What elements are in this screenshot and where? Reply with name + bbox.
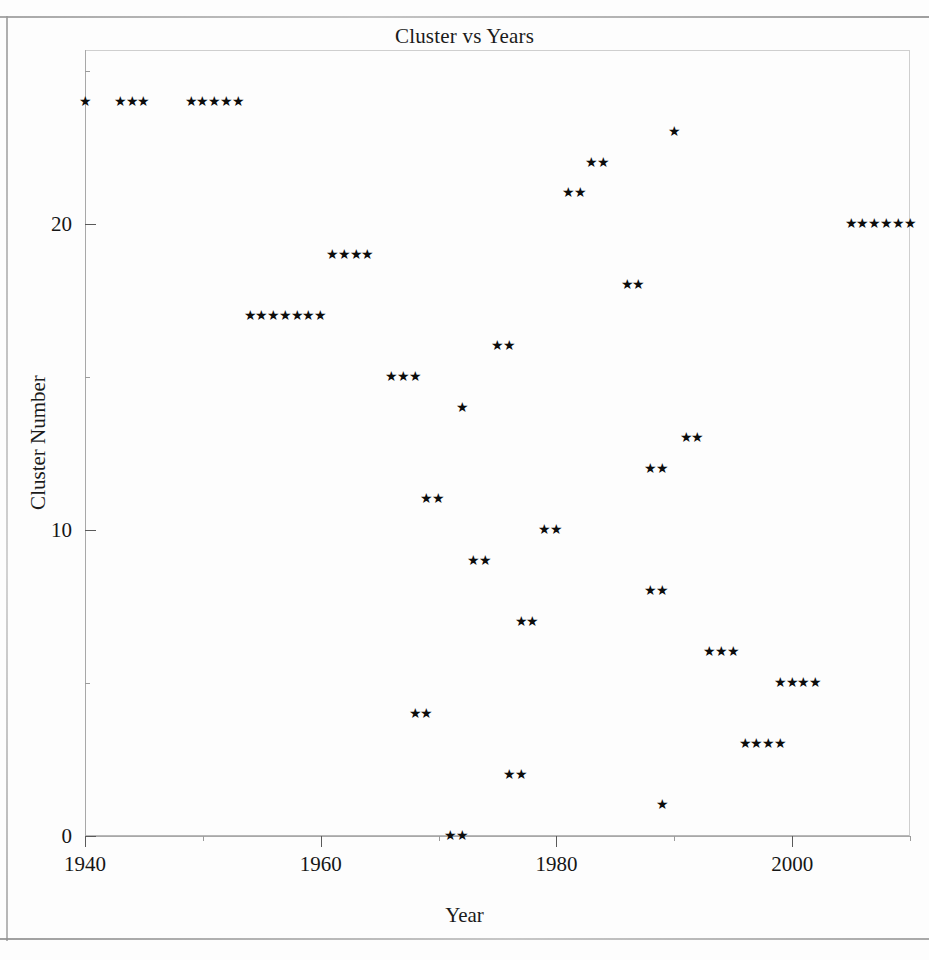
scatter-point-marker: ★ bbox=[656, 798, 669, 812]
y-axis-line bbox=[85, 50, 86, 836]
y-tick-minor bbox=[85, 377, 90, 378]
scatter-point-marker: ★ bbox=[727, 645, 740, 659]
scatter-point-marker: ★ bbox=[550, 523, 563, 537]
chart-title: Cluster vs Years bbox=[0, 24, 929, 49]
x-tick-major bbox=[556, 836, 557, 847]
scatter-point-marker: ★ bbox=[137, 95, 150, 109]
x-tick-minor bbox=[203, 836, 204, 841]
scatter-point-marker: ★ bbox=[597, 156, 610, 170]
x-tick-label: 1960 bbox=[300, 852, 342, 877]
scatter-point-marker: ★ bbox=[361, 248, 374, 262]
scatter-point-marker: ★ bbox=[456, 829, 469, 843]
page-edge-left bbox=[6, 16, 8, 941]
scatter-point-marker: ★ bbox=[668, 125, 681, 139]
y-tick-minor bbox=[85, 71, 90, 72]
x-tick-minor bbox=[674, 836, 675, 841]
x-tick-minor bbox=[910, 836, 911, 841]
scatter-point-marker: ★ bbox=[656, 462, 669, 476]
y-tick-label: 20 bbox=[10, 212, 72, 237]
scatter-point-marker: ★ bbox=[420, 707, 433, 721]
scatter-point-marker: ★ bbox=[479, 554, 492, 568]
x-tick-major bbox=[321, 836, 322, 847]
scatter-point-marker: ★ bbox=[809, 676, 822, 690]
scatter-point-marker: ★ bbox=[432, 492, 445, 506]
y-tick-label: 0 bbox=[10, 824, 72, 849]
plot-frame bbox=[85, 50, 910, 836]
scatter-point-marker: ★ bbox=[314, 309, 327, 323]
scatter-point-marker: ★ bbox=[409, 370, 422, 384]
x-tick-minor bbox=[439, 836, 440, 841]
scatter-point-marker: ★ bbox=[503, 339, 516, 353]
scatter-point-marker: ★ bbox=[79, 95, 92, 109]
scatter-point-marker: ★ bbox=[632, 278, 645, 292]
x-tick-major bbox=[792, 836, 793, 847]
page-edge-top bbox=[0, 16, 929, 18]
y-tick-major bbox=[85, 530, 96, 531]
y-tick-minor bbox=[85, 683, 90, 684]
scatter-point-marker: ★ bbox=[904, 217, 917, 231]
scatter-point-marker: ★ bbox=[574, 186, 587, 200]
x-tick-major bbox=[85, 836, 86, 847]
x-axis-label: Year bbox=[0, 903, 929, 928]
x-tick-label: 1940 bbox=[64, 852, 106, 877]
scatter-point-marker: ★ bbox=[456, 401, 469, 415]
scatter-point-marker: ★ bbox=[774, 737, 787, 751]
page-edge-bottom bbox=[0, 938, 929, 940]
scatter-point-marker: ★ bbox=[232, 95, 245, 109]
x-tick-label: 2000 bbox=[771, 852, 813, 877]
scatter-point-marker: ★ bbox=[526, 615, 539, 629]
scatter-point-marker: ★ bbox=[515, 768, 528, 782]
scatter-point-marker: ★ bbox=[656, 584, 669, 598]
x-tick-label: 1980 bbox=[535, 852, 577, 877]
x-axis-line bbox=[85, 836, 910, 837]
scanned-figure-page: Cluster vs Years 194019601980200001020 ★… bbox=[0, 0, 929, 960]
y-tick-major bbox=[85, 224, 96, 225]
y-axis-label: Cluster Number bbox=[26, 333, 51, 553]
y-tick-major bbox=[85, 836, 96, 837]
scatter-point-marker: ★ bbox=[691, 431, 704, 445]
